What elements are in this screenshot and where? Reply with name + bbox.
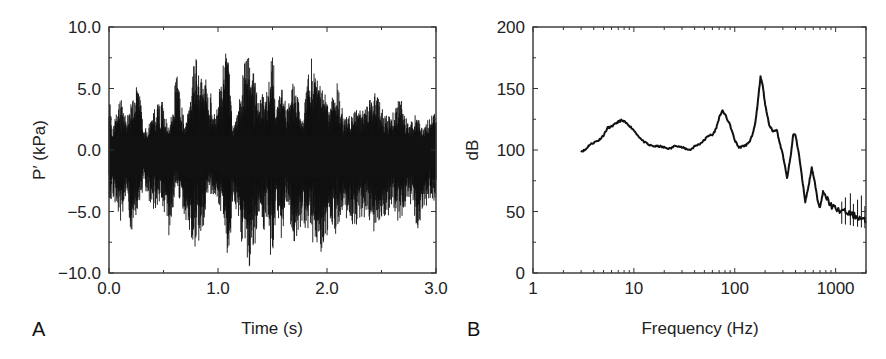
y-tick-label: 50 xyxy=(506,203,525,222)
pressure-signal-trace xyxy=(109,54,436,266)
x-tick-label: 1000 xyxy=(817,279,855,298)
y-tick-label: 5.0 xyxy=(77,80,101,99)
spectrum-curve xyxy=(581,76,866,228)
y-tick-label: 0 xyxy=(516,264,525,283)
figure-canvas: −10.0−5.00.05.010.0 0.01.02.03.0 Time (s… xyxy=(0,0,886,359)
x-tick-label: 100 xyxy=(721,279,749,298)
y-tick-label: 10.0 xyxy=(68,18,101,37)
panel-a-y-axis-label: P′ (kPa) xyxy=(30,120,49,180)
y-tick-label: −10.0 xyxy=(58,264,101,283)
panel-a-label: A xyxy=(32,318,46,340)
panel-b-spectrum: 050100150200 1101001000 Frequency (Hz) d… xyxy=(463,18,866,340)
figure: −10.0−5.00.05.010.0 0.01.02.03.0 Time (s… xyxy=(0,0,886,359)
panel-a-x-axis-label: Time (s) xyxy=(241,319,303,338)
panel-b-y-tick-labels: 050100150200 xyxy=(497,18,525,283)
x-tick-label: 1.0 xyxy=(206,279,230,298)
x-tick-label: 1 xyxy=(528,279,537,298)
panel-a-y-tick-labels: −10.0−5.00.05.010.0 xyxy=(58,18,101,283)
y-tick-label: 150 xyxy=(497,80,525,99)
y-tick-label: 0.0 xyxy=(77,141,101,160)
x-tick-label: 3.0 xyxy=(424,279,448,298)
x-tick-label: 2.0 xyxy=(315,279,339,298)
x-tick-label: 10 xyxy=(624,279,643,298)
y-tick-label: 200 xyxy=(497,18,525,37)
panel-a-time-signal: −10.0−5.00.05.010.0 0.01.02.03.0 Time (s… xyxy=(30,18,448,340)
x-tick-label: 0.0 xyxy=(97,279,121,298)
panel-b-label: B xyxy=(467,318,480,340)
panel-a-x-tick-labels: 0.01.02.03.0 xyxy=(97,279,448,298)
y-tick-label: 100 xyxy=(497,141,525,160)
y-tick-label: −5.0 xyxy=(67,203,101,222)
panel-b-y-axis-label: dB xyxy=(463,140,482,161)
panel-b-x-axis-label: Frequency (Hz) xyxy=(641,319,758,338)
panel-b-x-tick-labels: 1101001000 xyxy=(528,279,854,298)
